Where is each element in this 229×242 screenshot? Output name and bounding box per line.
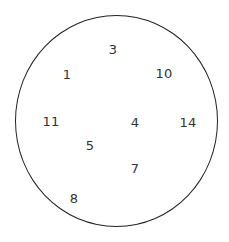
set-element: 4 (131, 116, 139, 129)
set-element: 10 (156, 67, 173, 80)
set-element: 14 (180, 116, 197, 129)
set-element: 1 (63, 68, 71, 81)
set-element: 11 (43, 115, 60, 128)
set-element: 8 (70, 192, 78, 205)
set-element: 7 (131, 162, 139, 175)
set-diagram: 3 1 10 11 4 14 5 7 8 (0, 0, 229, 242)
set-element: 3 (109, 43, 117, 56)
set-element: 5 (86, 139, 94, 152)
